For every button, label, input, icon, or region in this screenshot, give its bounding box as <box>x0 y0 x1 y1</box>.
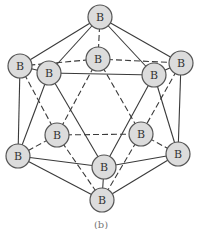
bond-upper-front-left-upper-front-right <box>49 73 154 75</box>
figure-caption: (b) <box>0 219 202 229</box>
atom-upper-right: B <box>169 51 193 75</box>
atom-label: B <box>177 57 185 70</box>
atom-upper-front-right: B <box>142 63 166 87</box>
atom-upper-front-left: B <box>37 61 61 85</box>
bond-upper-left-lower-left <box>18 66 20 156</box>
atom-label: B <box>174 148 182 161</box>
atom-lower-back-left: B <box>45 123 69 147</box>
bond-lower-left-bottom <box>18 156 102 200</box>
atom-label: B <box>100 161 108 174</box>
atom-label: B <box>96 11 104 24</box>
atom-lower-right: B <box>166 142 190 166</box>
atom-lower-back-right: B <box>129 122 153 146</box>
atom-bottom: B <box>90 188 114 212</box>
atom-label: B <box>150 69 158 82</box>
bond-upper-front-left-lower-left <box>18 73 49 156</box>
atom-top: B <box>88 5 112 29</box>
bond-top-upper-right <box>100 17 181 63</box>
bond-lower-back-left-lower-back-right <box>57 134 141 135</box>
atom-label: B <box>16 60 24 73</box>
atom-label: B <box>137 128 145 141</box>
atom-lower-left: B <box>6 144 30 168</box>
bond-upper-back-lower-back-right <box>98 59 141 134</box>
atom-upper-left: B <box>8 54 32 78</box>
bond-lower-left-lower-front <box>18 156 104 167</box>
atom-label: B <box>94 53 102 66</box>
atom-label: B <box>14 150 22 163</box>
bond-upper-front-right-lower-front <box>104 75 154 167</box>
atom-upper-back: B <box>86 47 110 71</box>
atom-label: B <box>45 67 53 80</box>
icosahedron-diagram: BBBBBBBBBBBB <box>0 0 202 229</box>
atom-lower-front: B <box>92 155 116 179</box>
atom-label: B <box>53 129 61 142</box>
atom-label: B <box>98 194 106 207</box>
bond-upper-right-lower-right <box>178 63 181 154</box>
bond-upper-front-left-lower-front <box>49 73 104 167</box>
